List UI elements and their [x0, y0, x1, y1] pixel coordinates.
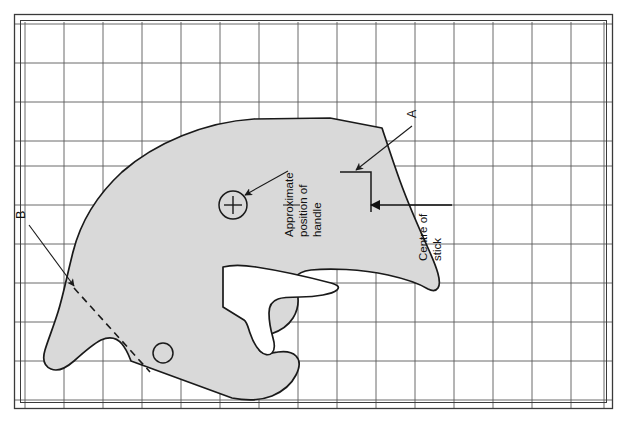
technical-diagram: A B Approximate position of handle Centr… — [0, 0, 627, 423]
centre-note-line-1: Centre of — [417, 213, 429, 261]
centre-note-line-2: stick — [431, 238, 443, 261]
handle-note-line-3: handle — [311, 202, 323, 237]
handle-note-line-2: position of — [297, 184, 309, 237]
diagram-page: A B Approximate position of handle Centr… — [0, 0, 627, 423]
label-b: B — [14, 211, 28, 219]
label-a: A — [405, 109, 419, 118]
handle-note-line-1: Approximate — [283, 172, 295, 237]
